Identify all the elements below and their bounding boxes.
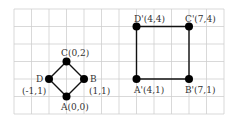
point-b-prime [185,75,193,83]
coordinate-diagram: C(0,2) D (-1,1) B (1,1) A(0,0) D'(4,4) C… [0,0,233,120]
label-a: A(0,0) [60,102,89,112]
label-d-coord: (-1,1) [22,86,46,96]
label-c: C(0,2) [61,48,89,58]
label-a-prime: A'(4,1) [133,85,164,95]
square-a-prime [133,23,194,84]
point-a [63,93,71,101]
label-d-name: D [36,74,43,84]
point-b [80,75,88,83]
label-b-prime: B'(7,1) [185,85,215,95]
label-c-prime: C'(7,4) [185,14,216,24]
point-a-prime [133,75,141,83]
label-b-coord: (1,1) [89,86,110,96]
label-d-prime: D'(4,4) [134,14,165,24]
label-b-name: B [90,74,97,84]
point-d [45,75,53,83]
point-c [63,58,71,66]
